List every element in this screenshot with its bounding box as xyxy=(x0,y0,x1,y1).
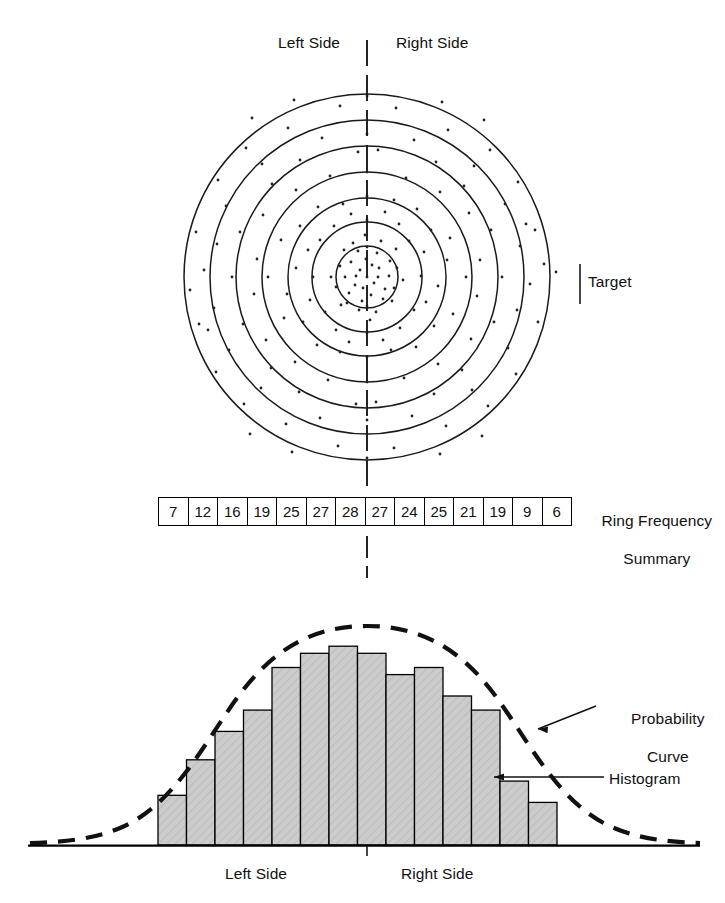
histogram-bar-9 xyxy=(386,675,415,845)
bottom-left-side-label: Left Side xyxy=(225,864,287,883)
probability-curve-leader xyxy=(538,706,596,733)
histogram-bar-8 xyxy=(358,653,387,845)
histogram-bar-7 xyxy=(329,646,358,845)
probability-curve-caption-line1: Probability xyxy=(631,710,704,727)
histogram-bar-10 xyxy=(415,668,444,846)
histogram-bar-3 xyxy=(215,731,244,845)
histogram-bar-5 xyxy=(272,668,301,846)
probability-curve-caption-line2: Curve xyxy=(647,748,689,765)
figure-canvas: Left Side Right Side xyxy=(0,0,725,903)
histogram-bar-13 xyxy=(500,781,529,845)
histogram-leader xyxy=(494,774,604,781)
histogram-bar-2 xyxy=(187,760,216,845)
histogram-bar-4 xyxy=(244,710,273,845)
histogram-bar-14 xyxy=(529,802,558,845)
histogram-caption: Histogram xyxy=(609,769,681,788)
bottom-right-side-label: Right Side xyxy=(401,864,474,883)
histogram-bar-11 xyxy=(443,696,472,845)
histogram-bar-6 xyxy=(301,653,330,845)
histogram-bar-1 xyxy=(158,795,187,845)
histogram-bars xyxy=(158,646,557,845)
